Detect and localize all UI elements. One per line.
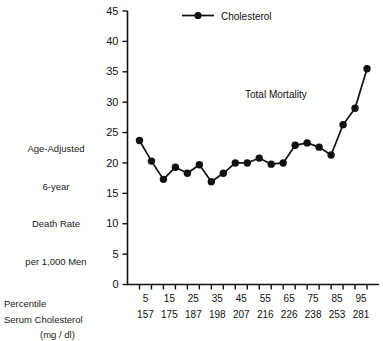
y-axis-title-line-2: 6-year <box>6 181 106 194</box>
y-tick-label: 10 <box>106 217 118 229</box>
x-percentile-label: 15 <box>164 293 176 304</box>
y-tick-label: 25 <box>106 126 118 138</box>
data-point <box>327 151 334 158</box>
data-point <box>244 159 251 166</box>
data-point <box>196 161 203 168</box>
data-point <box>232 159 239 166</box>
data-point <box>220 170 227 177</box>
annotation-total-mortality: Total Mortality <box>245 89 307 100</box>
y-axis-tick-labels: 051015202530354045 <box>106 5 118 291</box>
data-point <box>303 139 310 146</box>
x-axis-row-label-serum-cholesterol: Serum Cholesterol <box>4 314 83 325</box>
y-tick-label: 0 <box>112 278 118 290</box>
x-serum-label: 187 <box>185 309 202 320</box>
x-percentile-label: 45 <box>236 293 248 304</box>
data-point <box>148 157 155 164</box>
data-point <box>136 137 143 144</box>
y-axis-title-line-1: Age-Adjusted <box>6 143 106 156</box>
y-axis-title-line-3: Death Rate <box>6 218 106 231</box>
y-tick-label: 15 <box>106 187 118 199</box>
data-point <box>184 170 191 177</box>
data-point <box>339 121 346 128</box>
x-serum-label: 198 <box>209 309 226 320</box>
axes <box>127 11 379 285</box>
x-percentile-label: 95 <box>355 293 367 304</box>
y-tick-label: 35 <box>106 65 118 77</box>
x-serum-label: 238 <box>305 309 322 320</box>
chart-legend: Cholesterol <box>182 11 272 22</box>
data-point <box>256 154 263 161</box>
chart-figure: 051015202530354045 5152535455565758595 1… <box>0 0 383 341</box>
data-point <box>315 143 322 150</box>
y-tick-label: 45 <box>106 5 118 17</box>
x-serum-label: 226 <box>281 309 298 320</box>
legend-marker-icon <box>194 12 201 19</box>
x-serum-label: 157 <box>137 309 154 320</box>
x-axis-row-label-units: (mg / dl) <box>40 329 75 340</box>
data-point <box>279 159 286 166</box>
data-point <box>351 105 358 112</box>
y-axis-title-line-4: per 1,000 Men <box>6 256 106 269</box>
x-percentile-label: 25 <box>188 293 200 304</box>
y-tick-label: 5 <box>112 248 118 260</box>
x-axis-serum-labels: 157175187198207216226238253281 <box>137 309 370 320</box>
x-serum-label: 281 <box>353 309 370 320</box>
x-percentile-label: 55 <box>260 293 272 304</box>
x-serum-label: 175 <box>161 309 178 320</box>
x-percentile-label: 65 <box>284 293 296 304</box>
cholesterol-series-markers <box>136 65 371 185</box>
data-point <box>291 142 298 149</box>
y-tick-label: 20 <box>106 157 118 169</box>
y-tick-label: 40 <box>106 35 118 47</box>
data-point <box>160 176 167 183</box>
legend-label-cholesterol: Cholesterol <box>221 11 272 22</box>
x-serum-label: 216 <box>257 309 274 320</box>
x-axis-percentile-labels: 5152535455565758595 <box>143 293 367 304</box>
x-serum-label: 253 <box>329 309 346 320</box>
data-point <box>268 160 275 167</box>
x-percentile-label: 5 <box>143 293 149 304</box>
data-point <box>363 65 370 72</box>
x-percentile-label: 75 <box>308 293 320 304</box>
data-point <box>208 178 215 185</box>
x-percentile-label: 35 <box>212 293 224 304</box>
y-tick-label: 30 <box>106 96 118 108</box>
x-serum-label: 207 <box>233 309 250 320</box>
x-axis-row-label-percentile: Percentile <box>4 298 46 309</box>
y-axis-title: Age-Adjusted 6-year Death Rate per 1,000… <box>6 118 106 293</box>
data-point <box>172 163 179 170</box>
x-percentile-label: 85 <box>332 293 344 304</box>
